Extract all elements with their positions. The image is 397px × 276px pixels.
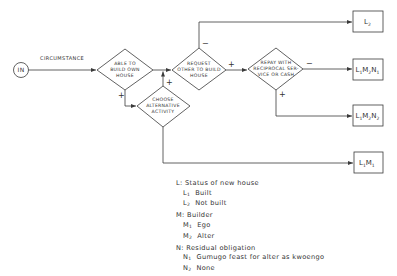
decision-repay: REPAY WITH RECIPROCAL SER- VICE OR CASH <box>248 48 303 90</box>
edge-request-to-l2 <box>199 22 352 48</box>
svg-text:ACTIVITY: ACTIVITY <box>152 109 175 114</box>
legend-item: N2 None <box>176 264 324 275</box>
decision-able-to-build: ABLE TO BUILD OWN HOUSE <box>97 49 153 90</box>
svg-text:BUILD OWN: BUILD OWN <box>110 67 140 72</box>
svg-text:HOUSE: HOUSE <box>116 73 134 78</box>
svg-text:RECIPROCAL SER-: RECIPROCAL SER- <box>253 66 299 71</box>
legend: L: Status of new house L1 Built L2 Not b… <box>176 179 324 276</box>
decision-request-other: REQUEST OTHER TO BUILD HOUSE <box>172 48 226 90</box>
start-node-in: IN <box>14 63 29 78</box>
edge-able-to-choose <box>125 90 136 106</box>
svg-text:REPAY WITH: REPAY WITH <box>261 60 292 65</box>
sign-repay-to-l1m2n2: + <box>279 90 286 99</box>
sign-able-to-choose: + <box>118 91 125 100</box>
edge-choose-to-l1m1 <box>163 127 353 163</box>
legend-group-m: M: Builder M1 Ego M2 Alter <box>176 211 324 242</box>
outcome-l1m1: L1M1 <box>354 152 383 173</box>
edges <box>29 22 354 163</box>
legend-group-l: L: Status of new house L1 Built L2 Not b… <box>176 179 324 210</box>
svg-text:IN: IN <box>18 66 25 73</box>
legend-item: L2 Not built <box>176 199 324 210</box>
svg-text:OTHER TO BUILD: OTHER TO BUILD <box>177 67 221 72</box>
legend-item: M2 Alter <box>176 232 324 243</box>
svg-text:L1M2N2: L1M2N2 <box>356 112 380 121</box>
outcome-l2: L2 <box>353 11 383 32</box>
decision-choose-alternative: CHOOSE ALTERNATIVE ACTIVITY <box>137 86 190 127</box>
svg-text:VICE OR CASH: VICE OR CASH <box>258 72 295 77</box>
legend-group-n: N: Residual obligation N1 Gumugo feast f… <box>176 244 324 275</box>
sign-request-to-repay: + <box>228 60 235 69</box>
svg-text:HOUSE: HOUSE <box>190 73 208 78</box>
outcome-l1m2n1: L1M2N1 <box>353 59 383 80</box>
circumstance-label: CIRCUMSTANCE <box>40 55 84 61</box>
svg-text:L1M2N1: L1M2N1 <box>356 66 380 75</box>
legend-item: N1 Gumugo feast for alter as kwoengo <box>176 253 324 264</box>
legend-item: L1 Built <box>176 189 324 200</box>
svg-text:ABLE TO: ABLE TO <box>114 61 136 66</box>
sign-choose-to-request: + <box>166 78 173 87</box>
edge-repay-to-l1m2n2 <box>276 90 352 116</box>
legend-item: M1 Ego <box>176 221 324 232</box>
outcome-l1m2n2: L1M2N2 <box>353 105 383 126</box>
svg-text:REQUEST: REQUEST <box>187 61 211 66</box>
svg-text:CHOOSE: CHOOSE <box>152 97 174 102</box>
svg-text:ALTERNATIVE: ALTERNATIVE <box>146 103 180 108</box>
sign-request-to-l2: − <box>202 39 209 48</box>
sign-repay-to-l1m2n1: − <box>306 59 313 68</box>
